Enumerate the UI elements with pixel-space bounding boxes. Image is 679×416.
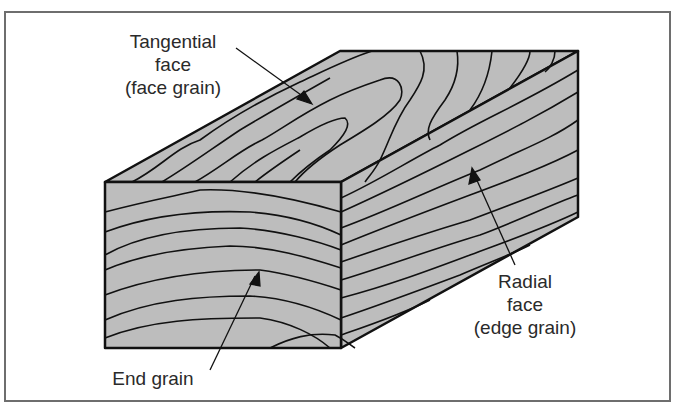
label-tangential-face: Tangential face (face grain): [108, 30, 238, 99]
end-face: [105, 182, 341, 348]
label-end-grain: End grain: [98, 367, 208, 390]
label-radial-face: Radial face (edge grain): [455, 270, 595, 339]
wood-block-diagram: [0, 0, 679, 416]
